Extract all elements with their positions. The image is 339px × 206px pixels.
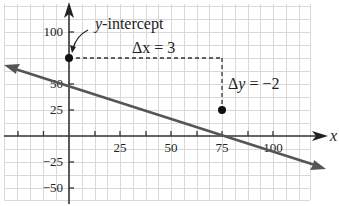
- pointer-arrowhead-icon: [70, 45, 76, 53]
- delta-x-label: Δx = 3: [132, 39, 175, 56]
- y-intercept-point: [65, 54, 73, 62]
- x-tick-label-25: 25: [114, 140, 127, 155]
- y-tick-labels: 100 50 25 −25 −50: [43, 24, 63, 195]
- delta-y-label: Δy = −2: [228, 75, 279, 93]
- x-tick-label-50: 50: [165, 140, 178, 155]
- slope-diagram: 100 50 25 −25 −50 25 50 75 100 x y-inter…: [0, 0, 339, 206]
- y-tick-label-neg25: −25: [43, 154, 63, 169]
- second-point: [218, 106, 226, 114]
- y-tick-label-25: 25: [50, 102, 63, 117]
- x-tick-label-75: 75: [216, 140, 229, 155]
- x-axis-label: x: [329, 127, 337, 144]
- y-tick-label-neg50: −50: [43, 180, 63, 195]
- y-intercept-label: y-intercept: [93, 15, 164, 33]
- y-tick-label-100: 100: [44, 24, 64, 39]
